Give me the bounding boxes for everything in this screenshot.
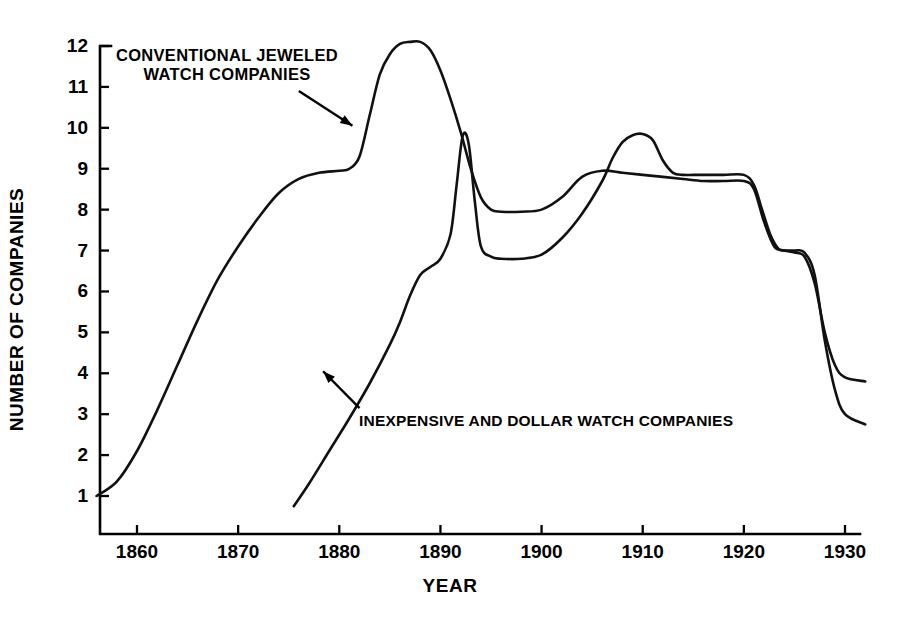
chart-figure: NUMBER OF COMPANIES YEAR 123456789101112… bbox=[0, 0, 900, 619]
x-axis-title: YEAR bbox=[0, 575, 900, 597]
y-tick-label-10: 10 bbox=[48, 118, 88, 137]
y-tick-label-4: 4 bbox=[48, 363, 88, 382]
x-tick-label-1920: 1920 bbox=[699, 542, 789, 561]
series-line-inexpensive-dollar bbox=[294, 133, 865, 507]
y-tick-label-3: 3 bbox=[48, 404, 88, 423]
y-tick-label-6: 6 bbox=[48, 281, 88, 300]
x-tick-label-1870: 1870 bbox=[193, 542, 283, 561]
x-tick-label-1910: 1910 bbox=[598, 542, 688, 561]
y-tick-label-1: 1 bbox=[48, 486, 88, 505]
series-label-inexpensive-dollar: INEXPENSIVE AND DOLLAR WATCH COMPANIES bbox=[359, 412, 733, 430]
annotation-arrows bbox=[299, 91, 360, 408]
y-tick-label-8: 8 bbox=[48, 200, 88, 219]
x-tick-label-1930: 1930 bbox=[800, 542, 890, 561]
x-tick-label-1900: 1900 bbox=[497, 542, 587, 561]
series-label-conventional-jeweled: CONVENTIONAL JEWELEDWATCH COMPANIES bbox=[112, 46, 342, 85]
chart-plot-area bbox=[0, 0, 900, 619]
arrow-dollar-label bbox=[323, 371, 359, 408]
x-tick-label-1890: 1890 bbox=[395, 542, 485, 561]
y-axis-title: NUMBER OF COMPANIES bbox=[0, 0, 34, 619]
y-tick-label-12: 12 bbox=[48, 36, 88, 55]
y-tick-label-2: 2 bbox=[48, 445, 88, 464]
x-tick-label-1880: 1880 bbox=[294, 542, 384, 561]
series-label-line: WATCH COMPANIES bbox=[112, 65, 342, 84]
y-tick-label-11: 11 bbox=[48, 77, 88, 96]
arrow-jeweled-label bbox=[299, 91, 353, 126]
y-tick-label-9: 9 bbox=[48, 159, 88, 178]
line-crossing-break bbox=[568, 202, 582, 211]
y-tick-label-5: 5 bbox=[48, 322, 88, 341]
series-label-line: CONVENTIONAL JEWELED bbox=[112, 46, 342, 65]
y-tick-label-7: 7 bbox=[48, 241, 88, 260]
x-tick-label-1860: 1860 bbox=[92, 542, 182, 561]
data-series bbox=[97, 41, 866, 506]
axes bbox=[100, 46, 860, 534]
